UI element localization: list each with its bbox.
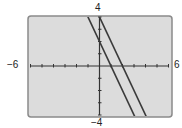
y-max-label: 4 (95, 3, 101, 13)
x-max-label: 6 (174, 60, 180, 70)
y-min-label: −4 (91, 118, 102, 128)
x-min-label: −6 (7, 60, 18, 70)
graph-window (0, 0, 182, 128)
